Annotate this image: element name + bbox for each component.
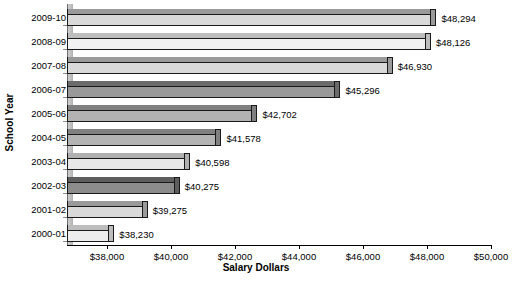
x-tick (299, 245, 300, 249)
x-tick (491, 245, 492, 249)
x-axis-title: Salary Dollars (0, 262, 512, 273)
bar-front-face (67, 110, 257, 122)
category-label: 2002-03 (22, 181, 66, 191)
x-tick-label: $38,000 (77, 251, 137, 262)
x-tick (235, 245, 236, 249)
bar-right-face (334, 81, 340, 98)
bar (67, 129, 221, 146)
x-tick (107, 245, 108, 249)
bar-right-face (251, 105, 257, 122)
bar-chart: School Year $38,000$40,000$42,000$44,000… (0, 0, 512, 282)
category-label: 2001-02 (22, 205, 66, 215)
bar-right-face (184, 153, 190, 170)
bar (67, 105, 257, 122)
bar-front-face (67, 86, 340, 98)
category-label: 2007-08 (22, 61, 66, 71)
bar-front-face (67, 134, 221, 146)
x-tick-label: $40,000 (141, 251, 201, 262)
category-label: 2003-04 (22, 157, 66, 167)
y-tick (63, 49, 67, 50)
y-tick (63, 169, 67, 170)
x-tick-label: $42,000 (205, 251, 265, 262)
bar-front-face (67, 206, 148, 218)
y-tick (63, 145, 67, 146)
bar-right-face (108, 225, 114, 242)
category-label: 2008-09 (22, 37, 66, 47)
x-tick-label: $48,000 (397, 251, 457, 262)
bar-value-label: $48,294 (441, 13, 475, 25)
bar-front-face (67, 14, 436, 26)
bar (67, 9, 436, 26)
y-tick (63, 217, 67, 218)
bar-front-face (67, 38, 431, 50)
bar (67, 33, 431, 50)
bar-right-face (430, 9, 436, 26)
x-tick-label: $50,000 (461, 251, 512, 262)
bar (67, 201, 148, 218)
x-tick-label: $44,000 (269, 251, 329, 262)
bar-value-label: $40,275 (185, 181, 219, 193)
bar-value-label: $39,275 (153, 205, 187, 217)
category-label: 2006-07 (22, 85, 66, 95)
category-label: 2000-01 (22, 229, 66, 239)
y-tick (63, 121, 67, 122)
y-axis-title: School Year (0, 0, 20, 244)
bar-front-face (67, 62, 393, 74)
bar-value-label: $46,930 (398, 61, 432, 73)
bar (67, 153, 190, 170)
y-tick (63, 241, 67, 242)
bar-value-label: $40,598 (195, 157, 229, 169)
bar (67, 225, 114, 242)
x-tick (363, 245, 364, 249)
bar (67, 81, 340, 98)
bar-value-label: $42,702 (262, 109, 296, 121)
bar-right-face (387, 57, 393, 74)
bar-right-face (174, 177, 180, 194)
x-tick (427, 245, 428, 249)
y-tick (63, 25, 67, 26)
x-tick (171, 245, 172, 249)
bar (67, 177, 180, 194)
y-tick (63, 193, 67, 194)
y-axis-title-text: School Year (4, 93, 15, 151)
x-tick-label: $46,000 (333, 251, 393, 262)
bar-front-face (67, 158, 190, 170)
bar (67, 57, 393, 74)
category-label: 2005-06 (22, 109, 66, 119)
category-label: 2004-05 (22, 133, 66, 143)
bar-value-label: $45,296 (345, 85, 379, 97)
y-tick (63, 73, 67, 74)
y-tick (63, 97, 67, 98)
bar-right-face (425, 33, 431, 50)
bar-value-label: $41,578 (226, 133, 260, 145)
bar-front-face (67, 182, 180, 194)
bar-right-face (142, 201, 148, 218)
bar-value-label: $48,126 (436, 37, 470, 49)
category-label: 2009-10 (22, 13, 66, 23)
bar-value-label: $38,230 (119, 229, 153, 241)
bar-front-face (67, 230, 114, 242)
plot-area: $38,000$40,000$42,000$44,000$46,000$48,0… (67, 4, 491, 245)
bar-right-face (215, 129, 221, 146)
